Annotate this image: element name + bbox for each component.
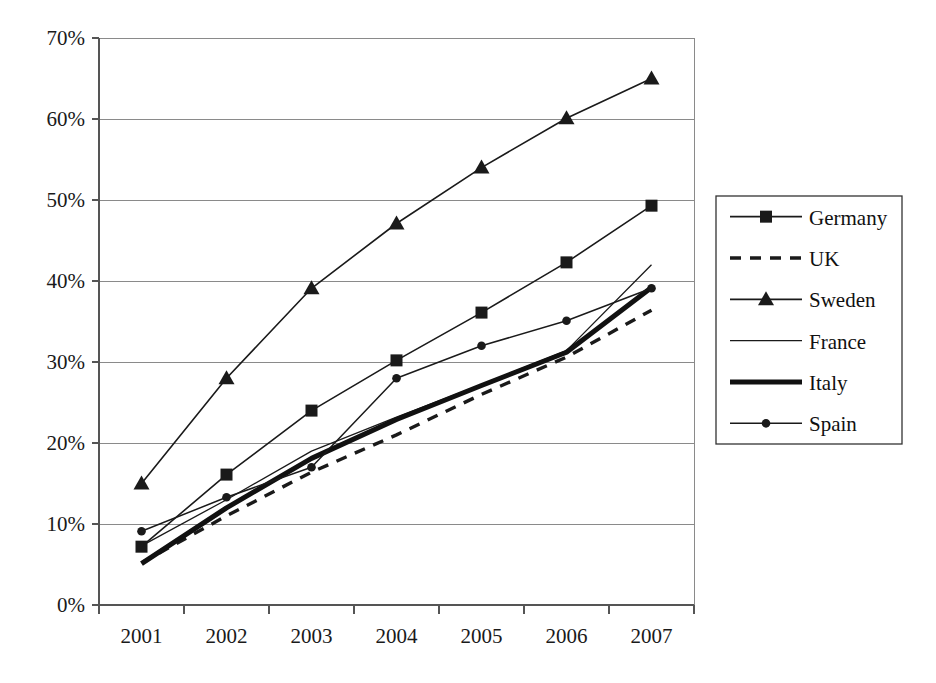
series-sweden-point-3-triangle-marker [389,215,405,229]
legend-label-sweden: Sweden [809,288,876,312]
x-axis-tick-label: 2005 [461,624,503,648]
series-spain [137,284,656,536]
series-spain-point-6-dot-marker [647,284,656,293]
series-sweden-point-4-triangle-marker [474,160,490,174]
series-sweden-point-5-triangle-marker [559,110,575,124]
y-axis-tick-label: 10% [47,512,86,536]
series-spain-point-1-dot-marker [222,493,231,502]
series-germany-point-1-square-marker [221,469,233,481]
y-axis-tick-label: 40% [47,269,86,293]
x-axis-tick-label: 2007 [631,624,673,648]
series-line-france [142,265,652,546]
chart-container: 0%10%20%30%40%50%60%70% 2001200220032004… [0,0,936,683]
series-line-spain [142,288,652,531]
x-axis-tick-labels: 2001200220032004200520062007 [121,624,673,648]
legend-label-france: France [809,330,866,354]
series-germany-point-0-square-marker [136,541,148,553]
legend-label-spain: Spain [809,412,857,436]
series-spain-point-2-dot-marker [307,463,316,472]
series-spain-point-5-dot-marker [562,316,571,325]
x-axis-tick-label: 2001 [121,624,163,648]
legend-label-uk: UK [809,247,839,271]
series-germany-point-6-square-marker [646,200,658,212]
x-axis-tick-label: 2003 [291,624,333,648]
series-germany-point-4-square-marker [476,307,488,319]
series-sweden-point-2-triangle-marker [304,280,320,294]
series-sweden [134,71,660,490]
legend-germany-square-marker [760,211,772,223]
x-axis-tick-label: 2006 [546,624,588,648]
y-axis-tick-label: 20% [47,431,86,455]
y-axis-tick-label: 0% [57,593,85,617]
series-germany-point-5-square-marker [561,256,573,268]
y-axis-tick-label: 60% [47,107,86,131]
data-series [134,71,660,564]
series-spain-point-0-dot-marker [137,527,146,536]
series-spain-point-4-dot-marker [477,342,486,351]
line-chart: 0%10%20%30%40%50%60%70% 2001200220032004… [0,0,936,683]
x-axis-tick-label: 2004 [376,624,419,648]
y-axis-tick-labels: 0%10%20%30%40%50%60%70% [47,26,86,617]
series-germany-point-2-square-marker [306,405,318,417]
series-france [142,265,652,546]
x-axis-tick-label: 2002 [206,624,248,648]
legend-label-italy: Italy [809,371,848,395]
y-axis-tick-label: 70% [47,26,86,50]
legend-label-germany: Germany [809,206,888,230]
series-sweden-point-6-triangle-marker [644,71,660,85]
legend-spain-dot-marker [762,419,771,428]
legend-box [716,196,902,444]
series-spain-point-3-dot-marker [392,374,401,383]
series-germany-point-3-square-marker [391,354,403,366]
chart-legend: GermanyUKSwedenFranceItalySpain [716,196,902,444]
y-axis-tick-label: 50% [47,188,86,212]
y-axis-tick-label: 30% [47,350,86,374]
